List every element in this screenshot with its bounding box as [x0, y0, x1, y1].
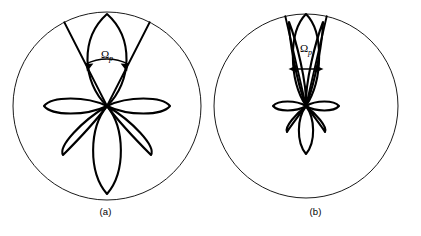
omega-subscript-a: p	[108, 54, 113, 63]
angle-label-a: Ωp	[101, 48, 113, 63]
radiation-pattern-a: Ωp	[0, 0, 211, 210]
main-lobe-a	[87, 14, 126, 106]
omega-symbol-b: Ω	[300, 42, 308, 54]
angle-label-b: Ωp	[300, 42, 312, 57]
omega-symbol-a: Ω	[101, 48, 109, 60]
caption-b: (b)	[210, 206, 421, 217]
back-lobe-b	[299, 106, 313, 154]
wedge-edge-left-a	[64, 22, 107, 106]
caption-a: (a)	[0, 206, 211, 217]
figure-root: Ωp (a)	[0, 0, 421, 236]
radiation-pattern-b: Ωp	[210, 0, 421, 210]
panel-a: Ωp (a)	[0, 0, 211, 236]
wedge-edge-right-a	[107, 22, 150, 106]
omega-subscript-b: p	[307, 48, 312, 57]
panel-b: Ωp (b)	[210, 0, 421, 236]
